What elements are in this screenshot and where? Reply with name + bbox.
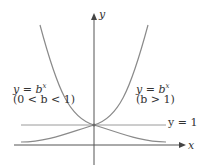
growth-condition-label: (b > 1) — [136, 93, 175, 106]
asymptote-label: y = 1 — [168, 116, 197, 129]
x-axis-arrow-icon — [179, 142, 186, 148]
decay-condition-label: (0 < b < 1) — [13, 93, 75, 106]
x-axis-label: x — [188, 139, 194, 152]
intersection-point — [93, 124, 96, 127]
y-axis-label: y — [99, 8, 105, 21]
y-axis-arrow-icon — [91, 13, 97, 20]
